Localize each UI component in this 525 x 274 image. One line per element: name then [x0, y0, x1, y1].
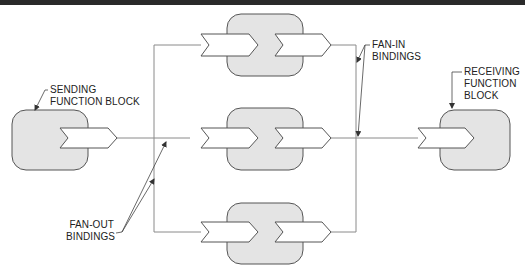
fan-out-leader-bus [122, 179, 154, 232]
fan-out-leader-trunk [122, 142, 166, 232]
input-port-icon [201, 128, 258, 148]
sending-block-label: SENDING FUNCTION BLOCK [50, 84, 140, 108]
receiving-label-line-1: RECEIVING [464, 66, 520, 78]
fan-out-bindings-label: FAN-OUT BINDINGS [66, 219, 114, 243]
sending-label-line-1: SENDING [50, 84, 140, 96]
receiving-label-leader [452, 72, 462, 108]
fan-in-label-line-2: BINDINGS [372, 51, 421, 63]
output-port-icon [60, 128, 117, 148]
output-port-icon [275, 222, 331, 242]
receiving-label-line-2: FUNCTION [464, 78, 520, 90]
receiving-label-line-3: BLOCK [464, 90, 520, 102]
fan-out-label-line-2: BINDINGS [66, 231, 114, 243]
fan-in-bindings-label: FAN-IN BINDINGS [372, 39, 421, 63]
input-port-icon [418, 128, 474, 148]
sending-label-leader [35, 90, 48, 110]
fan-in-leader-center [358, 45, 365, 136]
input-port-icon [201, 34, 258, 56]
receiving-block-label: RECEIVING FUNCTION BLOCK [464, 66, 520, 102]
receiving-function-block [418, 110, 510, 170]
sending-function-block [12, 110, 117, 170]
middle-function-block-center [201, 108, 331, 170]
output-port-icon [275, 34, 331, 56]
middle-function-block-bottom [201, 203, 331, 264]
sending-label-line-2: FUNCTION BLOCK [50, 96, 140, 108]
output-port-icon [275, 128, 331, 148]
fan-out-label-line-1: FAN-OUT [66, 219, 114, 231]
middle-function-block-top [201, 14, 331, 76]
fan-in-label-line-1: FAN-IN [372, 39, 421, 51]
input-port-icon [201, 222, 258, 242]
fan-out-leader-tail [116, 232, 122, 233]
